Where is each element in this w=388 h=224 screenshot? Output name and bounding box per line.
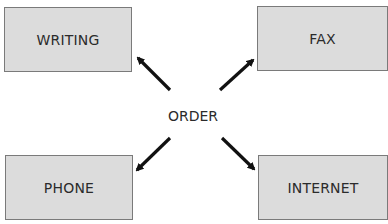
node-fax: FAX <box>257 6 388 71</box>
node-phone: PHONE <box>5 155 133 220</box>
arrow-to-phone <box>137 138 170 170</box>
node-writing-label: WRITING <box>36 32 99 48</box>
arrow-to-internet <box>222 138 254 169</box>
center-label-order: ORDER <box>168 108 218 124</box>
node-writing: WRITING <box>4 7 132 72</box>
node-internet: INTERNET <box>258 155 388 220</box>
node-phone-label: PHONE <box>44 180 94 196</box>
node-fax-label: FAX <box>309 31 336 47</box>
node-internet-label: INTERNET <box>287 180 358 196</box>
arrow-to-fax <box>220 60 253 90</box>
arrow-to-writing <box>138 58 170 90</box>
